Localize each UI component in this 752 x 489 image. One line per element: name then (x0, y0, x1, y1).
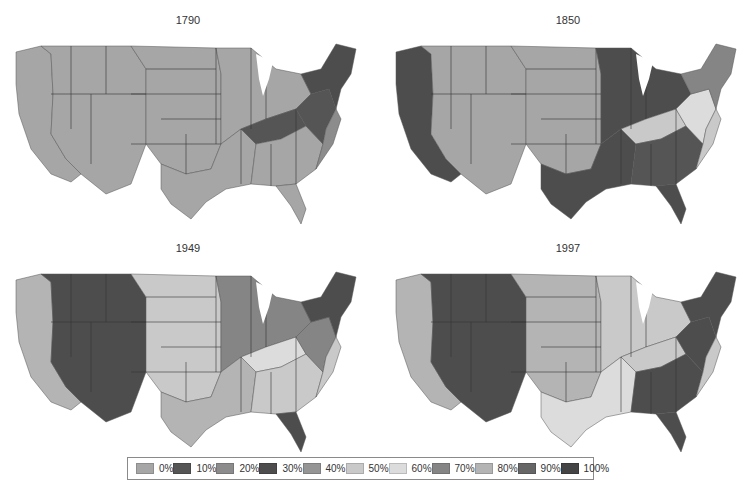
us-county-map (8, 34, 364, 226)
legend-item: 0% (136, 463, 173, 474)
map-panel-1949: 1949 (8, 228, 368, 456)
legend-item: 100% (561, 463, 610, 474)
us-county-map (388, 262, 744, 454)
legend-item: 40% (303, 463, 346, 474)
legend-label: 60% (412, 463, 432, 474)
legend-swatch (432, 463, 450, 474)
panel-title: 1949 (8, 242, 368, 254)
legend-item: 90% (518, 463, 561, 474)
region-florida (656, 184, 686, 224)
us-county-map (388, 34, 744, 226)
panel-title: 1850 (388, 14, 748, 26)
map-panel-1997: 1997 (388, 228, 748, 456)
region-florida (656, 412, 686, 452)
legend-label: 30% (282, 463, 302, 474)
panel-title: 1997 (388, 242, 748, 254)
legend-label: 100% (584, 463, 610, 474)
legend-label: 70% (455, 463, 475, 474)
legend-item: 30% (259, 463, 302, 474)
legend-swatch (346, 463, 364, 474)
legend-item: 50% (346, 463, 389, 474)
map-panel-1850: 1850 (388, 0, 748, 228)
region-florida (276, 184, 306, 224)
legend-label: 0% (159, 463, 173, 474)
legend-label: 50% (369, 463, 389, 474)
legend: 0%10%20%30%40%50%60%70%80%90%100% (127, 457, 594, 480)
legend-swatch (518, 463, 536, 474)
legend-swatch (136, 463, 154, 474)
legend-item: 60% (389, 463, 432, 474)
region-florida (276, 412, 306, 452)
legend-swatch (173, 463, 191, 474)
legend-item: 20% (216, 463, 259, 474)
us-county-map (8, 262, 364, 454)
legend-label: 40% (326, 463, 346, 474)
legend-label: 10% (196, 463, 216, 474)
legend-label: 80% (498, 463, 518, 474)
legend-swatch (475, 463, 493, 474)
legend-label: 90% (541, 463, 561, 474)
legend-item: 70% (432, 463, 475, 474)
legend-swatch (561, 463, 579, 474)
legend-swatch (259, 463, 277, 474)
map-panel-1790: 1790 (8, 0, 368, 228)
legend-label: 20% (239, 463, 259, 474)
legend-swatch (216, 463, 234, 474)
legend-item: 80% (475, 463, 518, 474)
legend-swatch (389, 463, 407, 474)
legend-swatch (303, 463, 321, 474)
panel-title: 1790 (8, 14, 368, 26)
legend-item: 10% (173, 463, 216, 474)
